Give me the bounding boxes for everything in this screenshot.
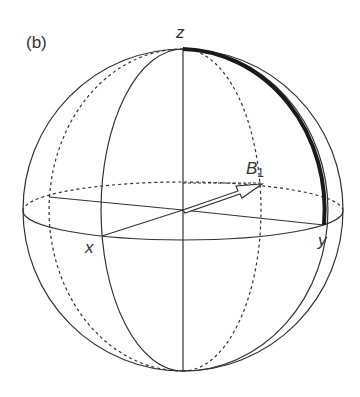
thick-arc-z-to-y bbox=[183, 49, 325, 225]
y-axis-label: y bbox=[318, 232, 327, 249]
panel-label: (b) bbox=[26, 34, 47, 51]
x-axis-label: x bbox=[85, 239, 94, 256]
z-axis-label: z bbox=[176, 24, 185, 41]
bloch-sphere-figure: (b) z x y B1 bbox=[0, 0, 360, 397]
x-axis bbox=[102, 210, 183, 236]
xz-meridian-front bbox=[101, 49, 183, 371]
b1-label-main: B bbox=[246, 159, 257, 178]
b1-label-subscript: 1 bbox=[257, 166, 264, 180]
y-axis bbox=[183, 210, 324, 225]
y-axis-back bbox=[49, 197, 183, 210]
b1-label: B1 bbox=[246, 160, 264, 179]
b1-arrow bbox=[183, 184, 262, 213]
sphere-diagram bbox=[0, 0, 360, 397]
yz-meridian-front bbox=[183, 49, 328, 371]
